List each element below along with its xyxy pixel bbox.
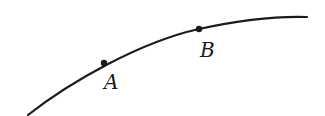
point-a-dot bbox=[101, 60, 107, 66]
point-a-label: A bbox=[102, 70, 118, 94]
point-b-label: B bbox=[199, 38, 215, 62]
curve bbox=[28, 17, 307, 115]
diagram-canvas: A B bbox=[0, 0, 325, 116]
point-b-dot bbox=[196, 26, 202, 32]
